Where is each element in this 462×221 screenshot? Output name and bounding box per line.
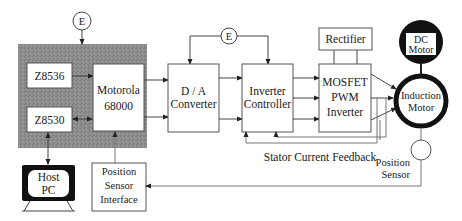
position-sensor: Position Sensor [376, 140, 431, 180]
position-sensor-label-line1: Position [376, 157, 411, 168]
inverter-controller-label-line2: Controller [244, 98, 291, 110]
inverter-controller-block: Inverter Controller [242, 64, 293, 132]
encoder-top: E [190, 28, 268, 64]
host-pc-label-line1: Host [38, 171, 61, 183]
induction-motor-label-line1: Induction [401, 90, 442, 101]
induction-motor: Induction Motor [396, 76, 446, 126]
mosfet-pwm-inverter-block: MOSFET PWM Inverter [319, 64, 371, 132]
da-converter-block: D / A Converter [168, 64, 219, 132]
encoder-left: E [73, 12, 91, 44]
psi-label-line3: Interface [100, 194, 138, 205]
host-pc-label-line2: PC [41, 184, 55, 196]
mosfet-label-line1: MOSFET [322, 76, 367, 88]
da-label-line1: D / A [181, 85, 207, 97]
rectifier-block: Rectifier [319, 28, 372, 64]
stator-feedback-label: Stator Current Feedback [264, 151, 377, 163]
z8530-block: Z8530 [27, 107, 72, 132]
encoder-left-label: E [79, 16, 85, 27]
motor-control-block-diagram: E Z8536 Z8530 Motorola 68000 Host PC Pos… [0, 0, 462, 221]
induction-motor-label-line2: Motor [408, 102, 435, 113]
inverter-controller-label-line1: Inverter [249, 85, 286, 97]
position-sensor-interface-block: Position Sensor Interface [92, 163, 146, 211]
mosfet-label-line2: PWM [331, 91, 358, 103]
motorola-label-line2: 68000 [104, 100, 133, 112]
motorola-label-line1: Motorola [97, 84, 140, 96]
dc-motor: DC Motor [399, 20, 443, 64]
mosfet-label-line3: Inverter [327, 106, 364, 118]
z8536-label: Z8536 [34, 70, 64, 82]
encoder-top-label: E [226, 31, 232, 42]
psi-label-line1: Position [102, 166, 137, 177]
motorola-68000-block: Motorola 68000 [93, 64, 144, 131]
dc-motor-label-line2: Motor [409, 44, 435, 55]
z8530-label: Z8530 [34, 114, 64, 126]
psi-label-line2: Sensor [105, 180, 134, 191]
z8536-block: Z8536 [27, 63, 72, 88]
rectifier-label: Rectifier [325, 33, 365, 45]
da-label-line2: Converter [171, 98, 217, 110]
position-sensor-label-line2: Sensor [381, 169, 410, 180]
